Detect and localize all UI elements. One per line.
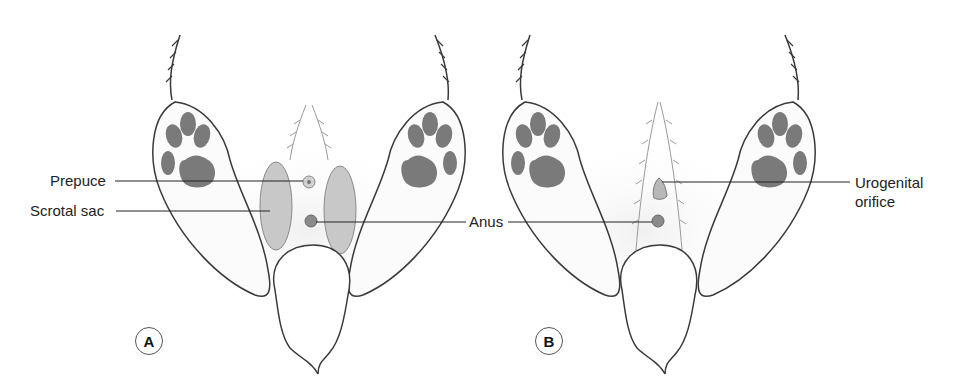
tail-b xyxy=(621,245,697,374)
scrotal-sac-right xyxy=(324,166,356,254)
label-urogenital-orifice-line1: Urogenital xyxy=(855,174,923,191)
figure-illustration xyxy=(0,0,954,383)
label-scrotal-sac: Scrotal sac xyxy=(30,202,104,219)
panel-b-drawing xyxy=(503,35,850,374)
anus-a xyxy=(305,215,317,227)
label-prepuce: Prepuce xyxy=(50,172,106,189)
panel-a-drawing xyxy=(115,35,466,374)
scrotal-sac-left xyxy=(260,162,292,250)
label-urogenital-orifice-line2: orifice xyxy=(855,193,895,210)
panel-a-badge: A xyxy=(135,327,163,355)
panel-b-badge: B xyxy=(535,327,563,355)
label-anus: Anus xyxy=(469,213,503,230)
anatomy-figure: Prepuce Scrotal sac Anus Urogenital orif… xyxy=(0,0,954,383)
tail-a xyxy=(274,245,350,374)
anus-b xyxy=(652,215,664,227)
